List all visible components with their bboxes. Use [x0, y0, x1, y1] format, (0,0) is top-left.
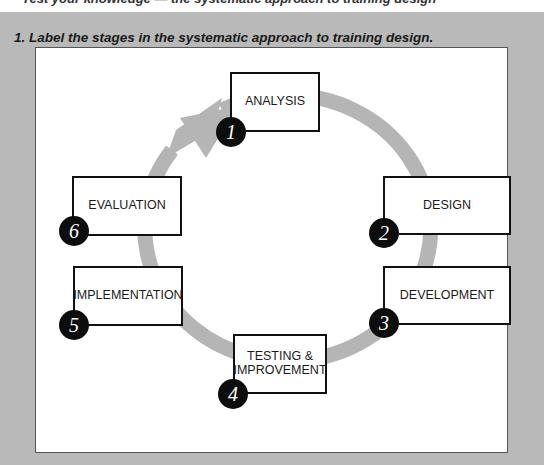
- badge-number: 3: [379, 312, 389, 335]
- stage-label: DESIGN: [423, 199, 471, 213]
- stage-box-testing[interactable]: TESTING & IMPROVEMENT: [233, 334, 327, 394]
- stage-box-development[interactable]: DEVELOPMENT: [383, 266, 511, 325]
- stage-box-implementation[interactable]: IMPLEMENTATION: [73, 266, 183, 326]
- stage-label: IMPLEMENTATION: [73, 289, 182, 303]
- stage-label: EVALUATION: [88, 199, 165, 213]
- stage-label: TESTING & IMPROVEMENT: [233, 350, 326, 378]
- badge-number: 4: [228, 383, 238, 406]
- badge-number: 1: [226, 121, 236, 144]
- stage-label: ANALYSIS: [245, 95, 305, 109]
- stage-number-badge: 5: [59, 310, 89, 340]
- stage-box-design[interactable]: DESIGN: [383, 176, 511, 235]
- stage-number-badge: 1: [216, 117, 246, 147]
- stage-number-badge: 6: [59, 216, 89, 246]
- stage-label: DEVELOPMENT: [400, 289, 494, 303]
- badge-number: 2: [379, 222, 389, 245]
- stage-number-badge: 4: [218, 379, 248, 409]
- badge-number: 5: [69, 314, 79, 337]
- stage-number-badge: 3: [369, 308, 399, 338]
- stage-number-badge: 2: [369, 218, 399, 248]
- badge-number: 6: [69, 220, 79, 243]
